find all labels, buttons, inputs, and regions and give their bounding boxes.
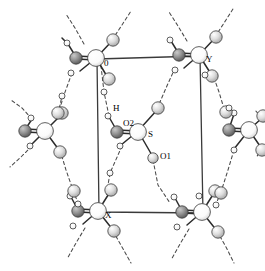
hbond-br-down <box>171 229 189 260</box>
atom-o-ur-bl <box>105 184 117 196</box>
atom-o2-lm <box>19 125 31 137</box>
atom-oh-ul-lm <box>28 115 34 121</box>
atom-oh-dl-tr <box>172 67 178 73</box>
atom-oh-dl-bl <box>70 223 76 229</box>
label-y-axis: Y <box>206 54 213 64</box>
label-x-axis: X <box>105 210 112 220</box>
atom-o2-br <box>176 206 188 218</box>
atom-group-top-left <box>64 34 119 85</box>
atom-oh-dl-lm <box>27 143 33 149</box>
atom-oh-mid-downright <box>196 193 202 199</box>
atom-o-ur-rm <box>257 110 265 122</box>
atom-o1-central <box>148 153 158 163</box>
atom-o2-tl <box>70 52 82 64</box>
crystal-structure-figure: 0 Y X H O2 S O1 <box>0 0 265 271</box>
atom-sulfur-br <box>194 204 211 221</box>
label-origin: 0 <box>104 58 109 68</box>
atom-oh-dl-rm <box>231 147 237 153</box>
hbond-tr-up <box>169 12 187 41</box>
atom-oh-ul-tr <box>167 37 173 43</box>
atom-o-dr-br <box>212 226 224 238</box>
atom-oh-dl-tl <box>68 70 74 76</box>
atom-h-central <box>105 113 111 119</box>
label-oxygen-1: O1 <box>160 151 171 161</box>
atom-sulfur-tl <box>88 50 105 67</box>
atom-sulfur-lm <box>37 123 54 140</box>
atoms <box>19 31 265 238</box>
hbond-bl-down <box>67 228 85 259</box>
atom-oh-mid-downleft <box>107 170 113 176</box>
atom-oh-chain-left-dn <box>75 201 81 207</box>
hbond-tl-up <box>66 14 84 44</box>
atom-oh-mid-upright <box>202 72 208 78</box>
label-hydrogen: H <box>113 103 120 113</box>
atom-bridge-lower-right <box>215 187 227 199</box>
atom-oh-chain-right-up <box>226 105 232 111</box>
atom-o2-central <box>111 126 123 138</box>
atom-bridge-upper-left <box>52 107 64 119</box>
atom-o-dr-tl <box>103 73 115 85</box>
atom-o-ur-tr <box>210 31 222 43</box>
label-sulfur: S <box>148 129 153 139</box>
atom-o-dr-bl <box>108 225 120 237</box>
atom-oh-mid-upleft <box>101 89 107 95</box>
atom-o-ur-tl <box>107 34 119 46</box>
atom-oh-chain-right-dn <box>213 202 219 208</box>
atom-group-bridging <box>52 72 232 208</box>
atom-oh-ul-br <box>171 194 177 200</box>
atom-sulfur-rm <box>241 122 258 139</box>
atom-o-dr-lm <box>54 146 66 158</box>
atom-o2-rm <box>223 124 235 136</box>
hbond-rm-downleft-link <box>221 150 234 192</box>
atom-o-dr-rm <box>256 144 265 156</box>
atom-group-top-right <box>167 31 222 82</box>
atom-o-upright-central <box>152 102 164 114</box>
hbond-lm-downleft <box>10 146 32 167</box>
atom-oh-lower-central <box>117 143 123 149</box>
atom-oh-dl-br <box>174 224 180 230</box>
hbond-central-down-right <box>153 160 170 203</box>
atom-oh-ul-tl <box>64 40 70 46</box>
atom-oh-chain-left-up <box>59 93 65 99</box>
label-oxygen-2: O2 <box>123 118 134 128</box>
atom-bridge-lower-left <box>68 185 80 197</box>
atom-o2-tr <box>173 49 185 61</box>
structure-canvas: 0 Y X H O2 S O1 <box>0 0 265 271</box>
atom-sulfur-bl <box>90 203 107 220</box>
atom-sulfur-tr <box>191 47 208 64</box>
